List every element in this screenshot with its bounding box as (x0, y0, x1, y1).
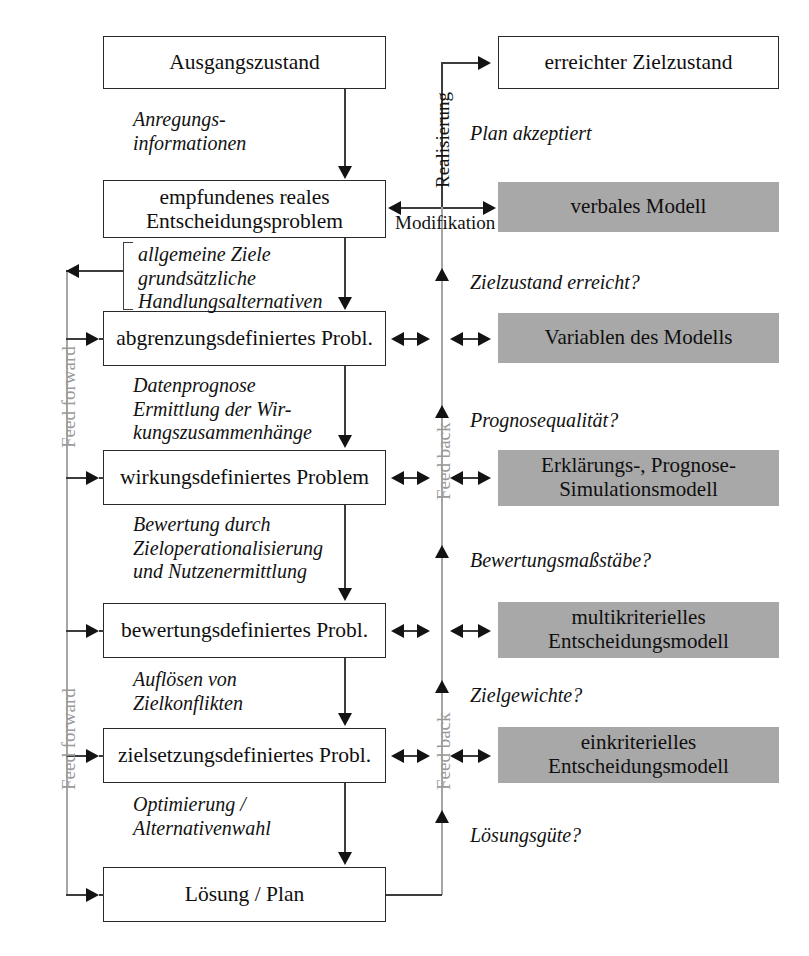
feed-forward-branch-4b (99, 755, 104, 757)
transition-label-datenprognose: Datenprognose Ermittlung der Wir- kungsz… (133, 374, 312, 445)
feedback-label-zielzustand-erreicht: Zielzustand erreicht? (470, 271, 640, 295)
feedback-label-bewertungsmassstaebe: Bewertungsmaßstäbe? (470, 549, 651, 573)
arrow-left-conn-1a (391, 332, 404, 346)
realisierung-to-result (441, 62, 479, 64)
process-box-loesung-plan[interactable]: Lösung / Plan (103, 867, 386, 922)
arrow-up-fb-5 (435, 810, 449, 823)
feed-forward-spine-lower (66, 445, 68, 715)
arrow-right-conn-4a (417, 749, 430, 763)
channel-label-feed-back-upper: Feed back (433, 422, 455, 500)
loesung-to-feedback (386, 894, 442, 896)
process-box-label: wirkungsdefiniertes Problem (114, 465, 375, 489)
feed-forward-branch-2 (66, 477, 88, 479)
arrow-left-conn-2a (391, 471, 404, 485)
feedback-label-zielgewichte: Zielgewichte? (470, 684, 582, 708)
feed-forward-branch-2b (99, 477, 104, 479)
channel-label-feed-forward-upper: Feed forward (58, 346, 80, 448)
model-box-label: einkriterielles Entscheidungsmodell (542, 731, 735, 778)
model-box-variablen-des-modells[interactable]: Variablen des Modells (498, 313, 779, 363)
arrow-up-fb-2 (435, 405, 449, 418)
process-box-bewertungsdefiniertes[interactable]: bewertungsdefiniertes Probl. (103, 603, 386, 658)
process-box-label: bewertungsdefiniertes Probl. (115, 618, 374, 642)
edge-label-realisierung: Realisierung (432, 92, 454, 188)
channel-label-feed-forward-lower: Feed forward (58, 688, 80, 790)
feed-forward-branch-5b (99, 894, 104, 896)
process-box-label: abgrenzungsdefiniertes Probl. (110, 326, 379, 350)
feed-forward-branch-1b (99, 338, 104, 340)
conn-line-3a (404, 630, 418, 632)
arrow-right-conn-4b (478, 749, 491, 763)
process-box-abgrenzungsdefiniertes[interactable]: abgrenzungsdefiniertes Probl. (103, 311, 386, 366)
transition-label-optimierung: Optimierung / Alternativenwahl (133, 793, 271, 840)
conn-line-4b (463, 755, 479, 757)
arrow-left-feedforward-in (66, 264, 79, 278)
feed-forward-branch-3 (66, 630, 88, 632)
feed-forward-branch-3b (99, 630, 104, 632)
conn-line-2a (404, 477, 418, 479)
arrow-left-conn-4a (391, 749, 404, 763)
arrow-right-conn-3b (478, 624, 491, 638)
feedback-label-loesungsguete: Lösungsgüte? (470, 824, 581, 848)
diagram-canvas: Ausgangszustand empfundenes reales Entsc… (0, 0, 809, 956)
arrow-right-ff-4 (86, 749, 99, 763)
process-box-zielsetzungsdefiniertes[interactable]: zielsetzungsdefiniertes Probl. (103, 728, 386, 783)
feed-forward-branch-1 (66, 338, 88, 340)
conn-line-4a (404, 755, 418, 757)
flow-line-3 (344, 366, 346, 436)
process-box-empfundenes-problem[interactable]: empfundenes reales Entscheidungsproblem (103, 180, 386, 238)
conn-line-3b (463, 630, 479, 632)
flow-line-5 (344, 658, 346, 714)
arrow-down-2 (338, 297, 352, 310)
transition-label-aufloesen-von: Auflösen von Zielkonflikten (133, 668, 243, 715)
edge-label-modifikation: Modifikation (395, 212, 495, 234)
arrow-right-ff-5 (86, 888, 99, 902)
arrow-right-conn-1b (478, 332, 491, 346)
model-box-verbales-modell[interactable]: verbales Modell (498, 182, 779, 232)
transition-label-anregungsinformationen: Anregungs- informationen (133, 108, 246, 155)
arrow-down-3 (338, 435, 352, 448)
process-box-wirkungsdefiniertes[interactable]: wirkungsdefiniertes Problem (103, 450, 386, 505)
arrow-left-conn-2b (450, 471, 463, 485)
feedback-label-plan-akzeptiert: Plan akzeptiert (470, 122, 592, 146)
transition-label-bewertung-durch: Bewertung durch Zieloperationalisierung … (133, 513, 323, 584)
arrow-right-ff-1 (86, 332, 99, 346)
flow-line-6 (344, 783, 346, 853)
grouping-bracket (123, 242, 133, 310)
conn-line-1a (404, 338, 418, 340)
arrow-right-conn-2b (478, 471, 491, 485)
arrow-left-conn-3b (450, 624, 463, 638)
result-box-erreichter-zielzustand[interactable]: erreichter Zielzustand (498, 36, 779, 89)
model-box-label: verbales Modell (565, 195, 713, 219)
arrow-right-ff-3 (86, 624, 99, 638)
arrow-right-conn-1a (417, 332, 430, 346)
arrow-down-4 (338, 588, 352, 601)
process-box-label: Ausgangszustand (163, 50, 325, 74)
model-box-multikriterielles[interactable]: multikriterielles Entscheidungsmodell (498, 602, 779, 658)
model-box-label: multikriterielles Entscheidungsmodell (542, 606, 735, 653)
arrow-right-conn-3a (417, 624, 430, 638)
arrow-right-realisierung (478, 56, 491, 70)
model-box-erklaerungs-prognose[interactable]: Erklärungs-, Prognose- Simulationsmodell (498, 450, 779, 506)
model-box-label: Variablen des Modells (539, 326, 739, 350)
arrow-right-conn-2a (417, 471, 430, 485)
result-box-label: erreichter Zielzustand (538, 50, 738, 74)
arrow-down-6 (338, 852, 352, 865)
arrow-up-fb-3 (435, 545, 449, 558)
flow-line-4 (344, 505, 346, 589)
feed-forward-branch-5 (66, 894, 88, 896)
arrow-right-ff-2 (86, 471, 99, 485)
arrow-down-1 (338, 166, 352, 179)
arrow-left-conn-4b (450, 749, 463, 763)
arrow-up-fb-4 (435, 680, 449, 693)
feedback-label-prognosequalitaet: Prognosequalität? (470, 409, 618, 433)
process-box-ausgangszustand[interactable]: Ausgangszustand (103, 36, 386, 89)
transition-label-allgemeine-ziele: allgemeine Ziele grundsätzliche Handlung… (138, 243, 322, 314)
process-box-label: empfundenes reales Entscheidungsproblem (140, 185, 349, 233)
arrow-left-conn-1b (450, 332, 463, 346)
model-box-einkriterielles[interactable]: einkriterielles Entscheidungsmodell (498, 727, 779, 783)
flow-line-1 (344, 89, 346, 167)
process-box-label: Lösung / Plan (179, 882, 310, 906)
model-box-label: Erklärungs-, Prognose- Simulationsmodell (535, 454, 742, 501)
arrow-up-fb-1 (435, 268, 449, 281)
arrow-left-conn-3a (391, 624, 404, 638)
